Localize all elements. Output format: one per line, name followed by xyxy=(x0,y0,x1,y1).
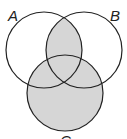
label-a: A xyxy=(7,7,18,24)
venn-diagram: A B C xyxy=(0,0,127,139)
label-c: C xyxy=(60,132,71,139)
label-b: B xyxy=(110,7,120,24)
